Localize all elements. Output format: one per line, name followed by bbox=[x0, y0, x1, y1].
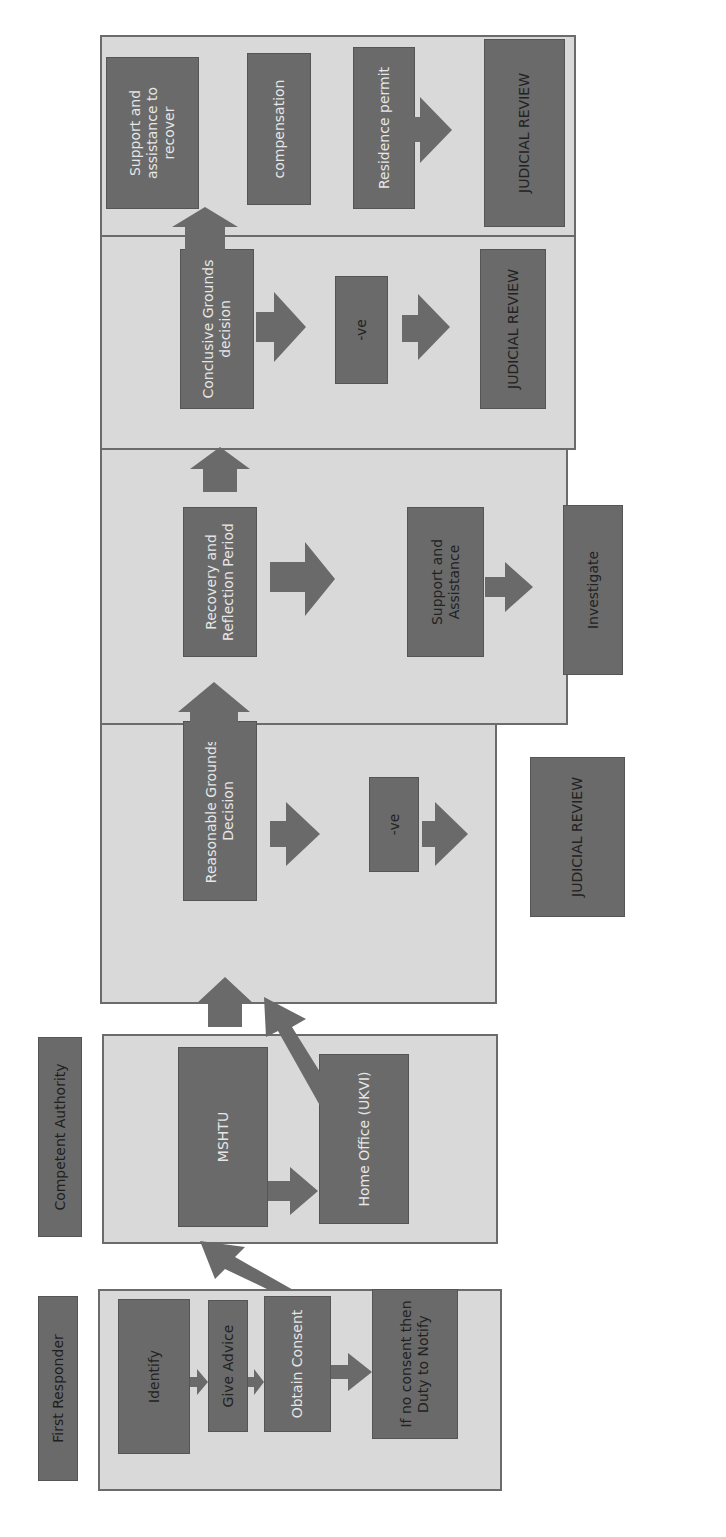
box-text: Reasonable Grounds Decision bbox=[203, 726, 237, 896]
box-identify: Identify bbox=[118, 1299, 190, 1454]
box-text: compensation bbox=[271, 80, 288, 179]
arrow-consent-to-mshtu bbox=[200, 1241, 295, 1291]
box-support-assistance: Support and Assistance bbox=[407, 507, 484, 657]
panel-reasonable-grounds bbox=[100, 699, 497, 1004]
box-text: If no consent then Duty to Notify bbox=[398, 1294, 432, 1434]
box-text: -ve bbox=[386, 814, 403, 836]
box-obtain-consent: Obtain Consent bbox=[264, 1296, 331, 1432]
box-text: Obtain Consent bbox=[289, 1310, 306, 1419]
box-text: -ve bbox=[353, 319, 370, 341]
box-text: Home Office (UKVI) bbox=[356, 1071, 373, 1206]
box-support-to-recover: Support and assistance to recover bbox=[106, 57, 199, 209]
lane-label-competent-authority: Competent Authority bbox=[38, 1037, 82, 1237]
box-home-office: Home Office (UKVI) bbox=[319, 1054, 409, 1224]
box-text: Residence permit bbox=[376, 67, 393, 189]
panel-competent-authority bbox=[102, 1034, 498, 1244]
box-text: Identify bbox=[146, 1350, 163, 1403]
box-cg-judicial-review: JUDICIAL REVIEW bbox=[480, 249, 546, 409]
box-mshtu: MSHTU bbox=[178, 1047, 268, 1227]
lane-label-text: First Responder bbox=[50, 1334, 66, 1443]
box-text: Conclusive Grounds decision bbox=[200, 254, 234, 404]
box-text: Support and Assistance bbox=[429, 512, 463, 652]
panel-recovery-reflection bbox=[100, 435, 568, 725]
box-cg-negative: -ve bbox=[335, 276, 388, 384]
box-outcome-judicial-review: JUDICIAL REVIEW bbox=[484, 39, 565, 227]
box-give-advice: Give Advice bbox=[208, 1300, 248, 1432]
box-text: Investigate bbox=[585, 551, 602, 629]
lane-label-text: Competent Authority bbox=[52, 1063, 68, 1210]
box-text: Give Advice bbox=[220, 1325, 237, 1408]
box-no-consent: If no consent then Duty to Notify bbox=[372, 1289, 458, 1439]
box-text: JUDICIAL REVIEW bbox=[516, 73, 533, 193]
box-recovery-reflection-period: Recovery and Reflection Period bbox=[183, 507, 257, 657]
box-residence-permit: Residence permit bbox=[353, 47, 415, 209]
flowchart: First Responder Competent Authority Iden… bbox=[0, 0, 726, 1537]
box-text: JUDICIAL REVIEW bbox=[505, 269, 522, 389]
box-conclusive-grounds-decision: Conclusive Grounds decision bbox=[180, 249, 254, 409]
box-compensation: compensation bbox=[247, 53, 311, 205]
box-investigate: Investigate bbox=[563, 505, 623, 675]
box-rg-negative: -ve bbox=[369, 777, 419, 872]
box-text: JUDICIAL REVIEW bbox=[569, 777, 586, 897]
box-reasonable-grounds-decision: Reasonable Grounds Decision bbox=[183, 721, 257, 901]
lane-label-first-responder: First Responder bbox=[38, 1296, 78, 1481]
box-text: MSHTU bbox=[215, 1112, 232, 1162]
box-text: Recovery and Reflection Period bbox=[203, 512, 237, 652]
box-text: Support and assistance to recover bbox=[127, 62, 178, 204]
box-rg-judicial-review: JUDICIAL REVIEW bbox=[530, 757, 625, 917]
